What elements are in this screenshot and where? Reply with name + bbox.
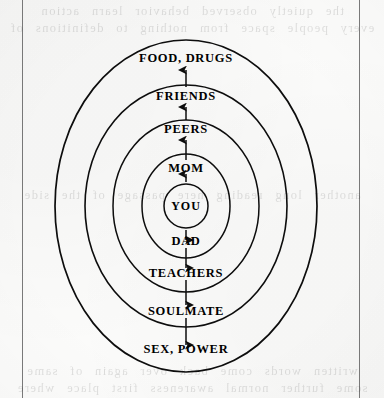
concentric-influence-diagram: FOOD, DRUGS FRIENDS PEERS MOM YOU DAD TE… bbox=[0, 0, 384, 398]
ring-label-you: YOU bbox=[171, 199, 201, 213]
ring-label-peers: PEERS bbox=[164, 122, 208, 136]
scanned-page: the quietly observed behavior learn acti… bbox=[0, 0, 384, 398]
ring-label-soulmate: SOULMATE bbox=[148, 304, 224, 318]
ring-label-dad: DAD bbox=[171, 234, 200, 248]
ring-label-mom: MOM bbox=[168, 161, 203, 175]
ring-label-sex-power: SEX, POWER bbox=[144, 342, 229, 356]
ring-label-teachers: TEACHERS bbox=[149, 266, 223, 280]
ring-label-friends: FRIENDS bbox=[156, 89, 216, 103]
ring-label-food-drugs: FOOD, DRUGS bbox=[139, 51, 233, 65]
